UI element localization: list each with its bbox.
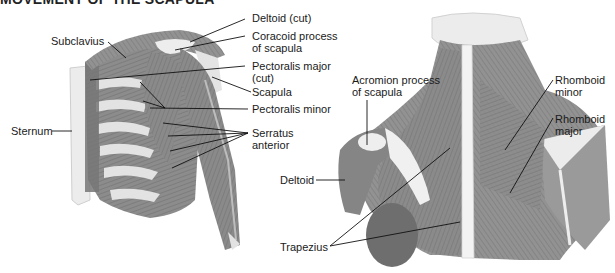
label-sternum: Sternum [11, 125, 53, 137]
posterior-view [316, 13, 610, 267]
label-deltoid: Deltoid [280, 174, 314, 186]
anterior-view [52, 19, 251, 250]
label-rhomboid-minor: Rhomboid minor [555, 74, 605, 98]
label-acromion-process: Acromion process of scapula [352, 74, 440, 98]
label-subclavius: Subclavius [51, 35, 104, 47]
label-pectoralis-minor: Pectoralis minor [252, 103, 331, 115]
label-scapula: Scapula [252, 86, 292, 98]
label-rhomboid-major: Rhomboid major [555, 113, 605, 137]
label-deltoid-cut: Deltoid (cut) [252, 12, 311, 24]
label-serratus-anterior: Serratus anterior [252, 127, 294, 151]
label-coracoid-process: Coracoid process of scapula [252, 30, 338, 54]
label-trapezius: Trapezius [280, 241, 328, 253]
label-pectoralis-major-cut: Pectoralis major (cut) [252, 60, 331, 84]
